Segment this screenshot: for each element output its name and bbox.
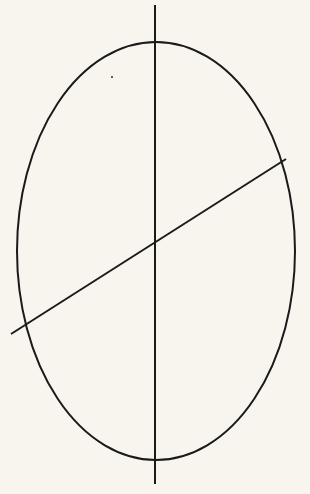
ellipse-diagram — [0, 0, 310, 494]
diagonal-diameter-line — [11, 159, 286, 334]
diagram-canvas — [0, 0, 310, 494]
stray-dot — [111, 76, 113, 78]
